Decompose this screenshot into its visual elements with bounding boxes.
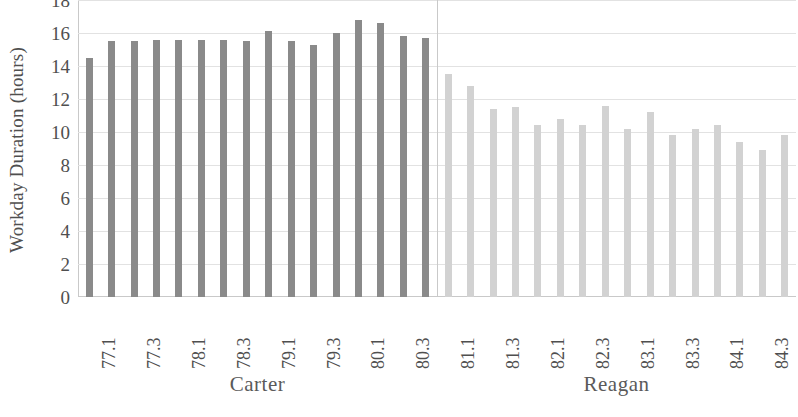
- y-axis-title-text: Workday Duration (hours): [6, 47, 28, 253]
- bar-81.2: [467, 86, 474, 297]
- bar-77.3: [131, 41, 138, 297]
- y-axis-tick-16: 16: [51, 24, 70, 43]
- bar-81.1: [445, 74, 452, 297]
- x-axis-tick-78.1: 78.1: [187, 299, 211, 369]
- y-axis-tick-4: 4: [61, 222, 71, 241]
- chart-container: Workday Duration (hours) 181614121086420…: [0, 0, 798, 417]
- bar-80.4: [422, 38, 429, 297]
- y-axis-tick-2: 2: [61, 255, 71, 274]
- bar-84.4: [781, 135, 788, 297]
- bar-83.1: [624, 129, 631, 297]
- bar-78.1: [175, 40, 182, 297]
- group-separator-line: [437, 0, 438, 297]
- y-axis-title: Workday Duration (hours): [0, 0, 34, 300]
- x-axis-tick-81.3: 81.3: [501, 299, 525, 369]
- x-axis-tick-83.3: 83.3: [681, 299, 705, 369]
- bar-82.4: [602, 106, 609, 297]
- bar-80.2: [377, 23, 384, 297]
- plot-area: [78, 0, 796, 297]
- group-label-row: CarterReagan: [78, 372, 796, 412]
- bar-81.3: [490, 109, 497, 297]
- x-axis-tick-79.3: 79.3: [322, 299, 346, 369]
- bar-80.1: [355, 20, 362, 297]
- bar-79.1: [265, 31, 272, 297]
- bar-77.2: [108, 41, 115, 297]
- bar-84.1: [714, 125, 721, 297]
- x-axis-tick-83.1: 83.1: [636, 299, 660, 369]
- y-axis-tick-labels: 181614121086420: [34, 0, 74, 305]
- bar-79.4: [333, 33, 340, 297]
- bar-83.3: [669, 135, 676, 297]
- bar-84.3: [759, 150, 766, 297]
- x-axis-tick-77.1: 77.1: [97, 299, 121, 369]
- bar-77.1: [86, 58, 93, 297]
- x-axis-tick-80.1: 80.1: [366, 299, 390, 369]
- y-axis-tick-12: 12: [51, 90, 70, 109]
- y-axis-tick-10: 10: [51, 123, 70, 142]
- x-axis-tick-82.3: 82.3: [591, 299, 615, 369]
- bar-79.3: [310, 45, 317, 297]
- x-axis-tick-84.1: 84.1: [725, 299, 749, 369]
- bar-81.4: [512, 107, 519, 297]
- x-axis-tick-81.1: 81.1: [456, 299, 480, 369]
- bar-80.3: [400, 36, 407, 297]
- bar-83.2: [647, 112, 654, 297]
- bar-82.3: [579, 125, 586, 297]
- bar-78.3: [220, 40, 227, 297]
- bar-79.2: [288, 41, 295, 297]
- group-label-carter: Carter: [78, 372, 437, 397]
- bar-82.1: [534, 125, 541, 297]
- x-axis-tick-79.1: 79.1: [277, 299, 301, 369]
- x-axis-tick-80.3: 80.3: [411, 299, 435, 369]
- bar-78.4: [243, 41, 250, 297]
- bar-83.4: [692, 129, 699, 297]
- y-axis-tick-0: 0: [61, 288, 71, 307]
- y-axis-tick-18: 18: [51, 0, 70, 10]
- x-axis-tick-82.1: 82.1: [546, 299, 570, 369]
- bar-82.2: [557, 119, 564, 297]
- x-axis-tick-78.3: 78.3: [232, 299, 256, 369]
- group-label-reagan: Reagan: [437, 372, 796, 397]
- bar-77.4: [153, 40, 160, 297]
- y-axis-tick-14: 14: [51, 57, 70, 76]
- x-axis-tick-labels: 77.177.378.178.379.179.380.180.381.181.3…: [78, 299, 796, 371]
- bar-84.2: [736, 142, 743, 297]
- bar-78.2: [198, 40, 205, 297]
- x-axis-tick-84.3: 84.3: [770, 299, 794, 369]
- x-axis-tick-77.3: 77.3: [142, 299, 166, 369]
- y-axis-tick-8: 8: [61, 156, 71, 175]
- y-axis-tick-6: 6: [61, 189, 71, 208]
